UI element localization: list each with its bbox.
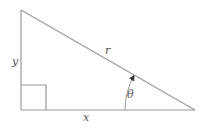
label-y: y — [11, 55, 19, 68]
triangle-diagram: y x r θ — [0, 0, 206, 130]
hypotenuse-r — [21, 10, 195, 110]
label-theta: θ — [127, 88, 134, 101]
label-r: r — [105, 44, 111, 57]
label-x: x — [83, 111, 90, 124]
right-angle-marker — [21, 85, 46, 110]
